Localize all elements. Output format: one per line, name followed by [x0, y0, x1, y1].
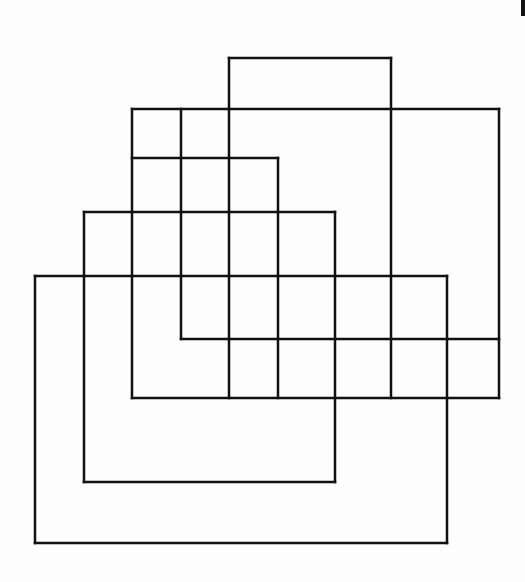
- diagram-canvas: [0, 0, 525, 582]
- overlapping-rectangles-diagram: [0, 0, 525, 582]
- corner-mark: [521, 0, 525, 16]
